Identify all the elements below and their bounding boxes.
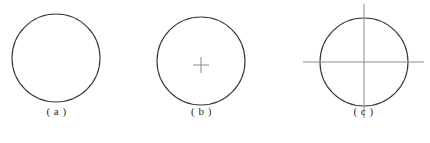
circle-diagram-c bbox=[297, 0, 430, 143]
figure-panel-a: ( a ) bbox=[0, 0, 113, 143]
figure-panel-b: ( b ) bbox=[145, 0, 258, 143]
center-lines-c bbox=[303, 4, 424, 118]
figure-caption-c: ( c ) bbox=[297, 105, 430, 118]
circle-diagram-b bbox=[145, 0, 258, 143]
circle-outline-a bbox=[12, 14, 100, 102]
figure-sheet: ( a ) ( b ) ( c ) bbox=[0, 0, 430, 143]
figure-caption-a: ( a ) bbox=[0, 105, 113, 118]
circle-diagram-a bbox=[0, 0, 113, 143]
figure-caption-b: ( b ) bbox=[145, 105, 258, 118]
figure-panel-c: ( c ) bbox=[297, 0, 430, 143]
center-cross-icon-b bbox=[193, 57, 209, 73]
